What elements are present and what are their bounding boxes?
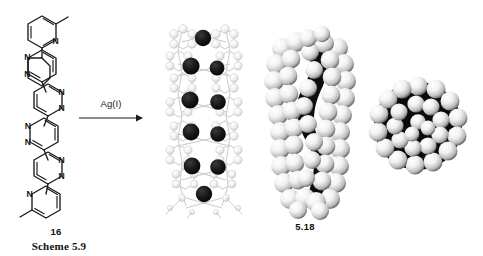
atom-label-n: N: [58, 87, 64, 97]
atom-label-n: N: [25, 121, 31, 131]
atom-label-n: N: [58, 171, 64, 181]
atom-label-n: N: [24, 69, 30, 79]
atom-label-n: N: [24, 52, 30, 62]
spacefill-spheres: [264, 26, 356, 220]
atom-label-n: N: [58, 103, 64, 113]
product-model-spacefill-axial: [368, 76, 470, 176]
scheme-caption: Scheme 5.9: [0, 240, 118, 252]
atom-label-n: N: [25, 137, 31, 147]
product-label: 5.18: [262, 221, 348, 232]
atom-label-n: N: [58, 155, 64, 165]
atom-label-n: N: [53, 36, 59, 46]
reagent-label: Ag(I): [78, 98, 144, 109]
axial-spheres: [369, 77, 468, 175]
atom-label-n: N: [26, 189, 32, 199]
reactant-label: 16: [0, 226, 112, 237]
product-model-ball-and-stick: [152, 16, 256, 218]
product-model-spacefill-side: [258, 18, 362, 220]
ring-pyridazine-2: N N: [34, 84, 65, 126]
scheme-canvas: N N N N N: [0, 0, 483, 256]
ring-pyridine-bottom: N: [20, 186, 60, 218]
ligand-rings: [170, 29, 238, 189]
ring-pyridine-top: N: [28, 16, 68, 58]
ring-pyridazine-3: N N: [25, 118, 58, 160]
